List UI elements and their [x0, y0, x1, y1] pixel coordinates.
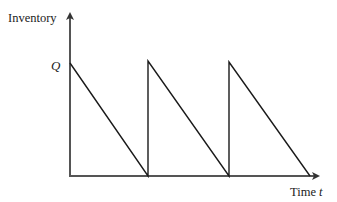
x-axis-label: Time t	[290, 185, 323, 199]
inventory-sawtooth-line	[70, 61, 310, 176]
y-axis-label: Inventory	[8, 11, 57, 25]
x-axis-label-prefix: Time	[290, 185, 319, 199]
inventory-sawtooth-diagram: Inventory Q Time t	[0, 0, 337, 202]
level-q-label: Q	[51, 58, 61, 73]
x-axis-label-variable: t	[319, 185, 323, 199]
